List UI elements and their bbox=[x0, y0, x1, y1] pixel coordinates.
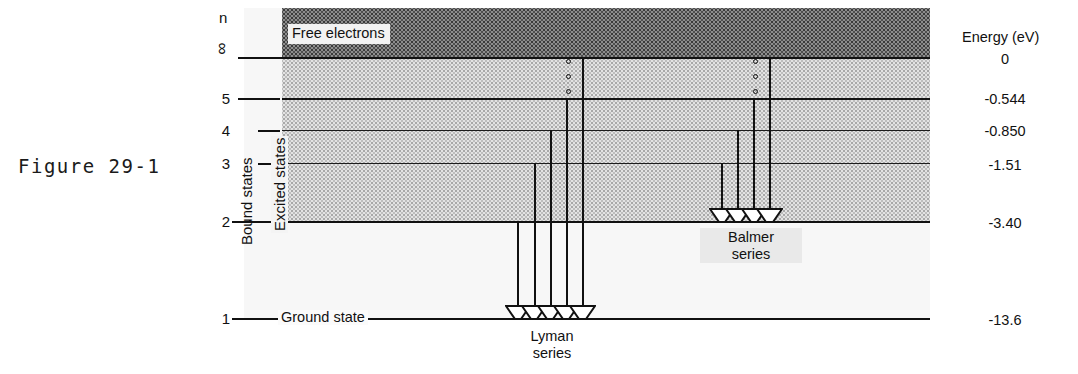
level-label-n5: 5 bbox=[204, 91, 230, 106]
level-line-n2 bbox=[232, 221, 930, 223]
lyman-arrow-shaft-inf-to-1 bbox=[582, 57, 584, 314]
figure-root: Figure 29-1 n ∞ 5 4 3 2 1 Free electrons… bbox=[0, 0, 1078, 374]
balmer-arrow-shaft-4-to-2 bbox=[737, 130, 739, 214]
lyman-continuation-dots bbox=[566, 59, 580, 103]
lyman-arrow-shaft-4-to-1 bbox=[550, 130, 552, 314]
excited-states-region bbox=[282, 57, 930, 221]
ground-state-label: Ground state bbox=[278, 310, 368, 325]
lyman-arrow-shaft-5-to-1 bbox=[566, 98, 568, 314]
energy-axis-header: Energy (eV) bbox=[962, 30, 1039, 45]
level-line-n3 bbox=[282, 163, 930, 164]
n-axis-header: n bbox=[219, 10, 227, 25]
level-label-n2: 2 bbox=[204, 214, 230, 229]
balmer-arrow-shaft-3-to-2 bbox=[721, 163, 723, 214]
energy-value-n5: -0.544 bbox=[962, 92, 1048, 107]
energy-value-ninf: 0 bbox=[962, 52, 1048, 67]
energy-value-n3: -1.51 bbox=[962, 158, 1048, 173]
infinity-level-label: ∞ bbox=[214, 42, 231, 54]
lyman-arrow-shaft-3-to-1 bbox=[534, 163, 536, 314]
level-stub-n5 bbox=[238, 98, 280, 100]
energy-value-n2: -3.40 bbox=[962, 216, 1048, 231]
level-line-n4 bbox=[282, 130, 930, 131]
balmer-series-sub: series bbox=[703, 246, 799, 263]
lyman-series-label: Lyman series bbox=[500, 328, 604, 361]
lyman-series-sub: series bbox=[500, 345, 604, 362]
balmer-continuation-dots bbox=[753, 59, 767, 103]
balmer-arrow-shaft-5-to-2 bbox=[753, 98, 755, 214]
level-label-n1: 1 bbox=[204, 311, 230, 326]
level-label-n3: 3 bbox=[204, 156, 230, 171]
energy-value-n4: -0.850 bbox=[962, 124, 1048, 139]
level-line-n5 bbox=[282, 98, 930, 100]
level-line-n1-right bbox=[368, 318, 930, 320]
free-electrons-label: Free electrons bbox=[288, 24, 390, 44]
level-label-n4: 4 bbox=[204, 123, 230, 138]
energy-value-n1: -13.6 bbox=[962, 313, 1048, 328]
level-line-ninf bbox=[238, 57, 930, 59]
lyman-series-name: Lyman bbox=[500, 328, 604, 345]
balmer-series-label: Balmer series bbox=[700, 228, 802, 263]
bound-states-label: Bound states bbox=[239, 157, 254, 245]
level-line-n1-left bbox=[232, 318, 278, 320]
balmer-series-name: Balmer bbox=[703, 229, 799, 246]
figure-caption: Figure 29-1 bbox=[18, 155, 160, 177]
balmer-arrow-shaft-inf-to-2 bbox=[769, 57, 771, 214]
level-stub-n4 bbox=[258, 130, 280, 132]
lyman-arrow-shaft-2-to-1 bbox=[517, 221, 519, 314]
excited-states-label: Excited states bbox=[271, 136, 288, 233]
